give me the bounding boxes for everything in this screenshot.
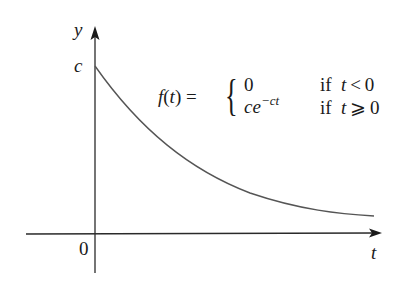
function-lhs: f(t) = xyxy=(158,86,197,108)
c-tick-label: c xyxy=(74,56,82,75)
case2-value: ce−ct xyxy=(244,96,279,118)
left-brace: { xyxy=(225,74,238,118)
origin-label: 0 xyxy=(79,239,89,258)
x-axis xyxy=(26,233,374,234)
case1-condition: if t < 0 xyxy=(320,74,374,96)
y-axis-label: y xyxy=(74,20,82,39)
case2-condition: if t ⩾ 0 xyxy=(320,96,380,119)
x-axis-label: t xyxy=(371,243,376,262)
chart-canvas xyxy=(0,0,394,290)
case1-value: 0 xyxy=(244,74,254,96)
